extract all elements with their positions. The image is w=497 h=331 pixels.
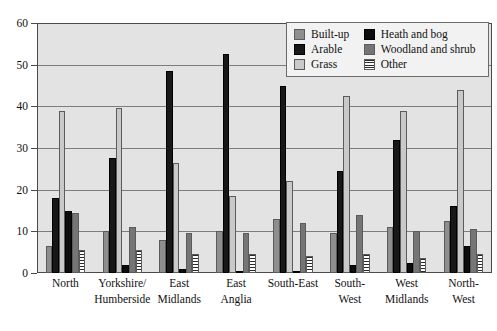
x-tick-label-line: North- [421, 276, 497, 292]
bar-grass [286, 181, 293, 273]
bar-builtup [444, 221, 451, 273]
legend-swatch-heath [364, 29, 375, 40]
bar-woodland [356, 215, 363, 273]
bar-other [306, 256, 313, 273]
y-tick-label-20: 20 [17, 184, 29, 196]
y-tick-label-50: 50 [17, 59, 29, 71]
bar-grass [116, 108, 123, 273]
bar-arable [337, 171, 344, 273]
bar-heath [179, 269, 186, 273]
bar-woodland [186, 233, 193, 273]
bar-woodland [300, 223, 307, 273]
chart-legend: Built-upHeath and bogArableWoodland and … [286, 22, 489, 77]
bar-grass [343, 96, 350, 273]
bar-woodland [243, 233, 250, 273]
legend-swatch-grass [294, 59, 305, 70]
bar-builtup [159, 240, 166, 273]
bar-other [477, 254, 484, 273]
y-tick-label-10: 10 [17, 225, 29, 237]
bar-group [37, 23, 94, 273]
bar-builtup [330, 233, 337, 273]
legend-label: Built-up [311, 28, 349, 41]
bar-grass [229, 196, 236, 273]
bar-woodland [413, 231, 420, 273]
legend-label: Grass [311, 58, 337, 71]
bar-chart: 0102030405060 NorthYorkshire/HumbersideE… [0, 0, 497, 331]
bar-heath [65, 211, 72, 274]
legend-label: Woodland and shrub [381, 43, 476, 56]
legend-item-other[interactable]: Other [364, 58, 482, 71]
legend-swatch-woodland [364, 44, 375, 55]
legend-swatch-arable [294, 44, 305, 55]
bar-other [420, 258, 427, 273]
y-tick-label-30: 30 [17, 142, 29, 154]
bar-builtup [216, 231, 223, 273]
bar-builtup [46, 246, 53, 273]
bar-builtup [387, 227, 394, 273]
bar-arable [450, 206, 457, 273]
bar-group [94, 23, 151, 273]
legend-swatch-builtup [294, 29, 305, 40]
bar-other [249, 254, 256, 273]
bar-grass [400, 111, 407, 274]
legend-item-woodland[interactable]: Woodland and shrub [364, 43, 482, 56]
bar-heath [122, 265, 129, 273]
y-tick-mark-0 [31, 273, 37, 274]
bar-builtup [273, 219, 280, 273]
bar-heath [293, 271, 300, 273]
bar-other [363, 254, 370, 273]
legend-item-grass[interactable]: Grass [294, 58, 356, 71]
bar-builtup [103, 231, 110, 273]
bar-arable [393, 140, 400, 273]
bar-arable [109, 158, 116, 273]
legend-swatch-other [364, 59, 375, 70]
bar-arable [280, 86, 287, 274]
legend-item-arable[interactable]: Arable [294, 43, 356, 56]
x-tick-label-line: Anglia [194, 292, 279, 308]
bar-other [136, 250, 143, 273]
bar-woodland [129, 227, 136, 273]
y-tick-label-60: 60 [17, 17, 29, 29]
bar-arable [166, 71, 173, 273]
bar-heath [350, 265, 357, 273]
bar-woodland [470, 229, 477, 273]
legend-label: Heath and bog [381, 28, 448, 41]
x-tick-label: North-West [421, 276, 497, 307]
bar-arable [52, 198, 59, 273]
bar-grass [173, 163, 180, 273]
bar-heath [464, 246, 471, 273]
bar-grass [59, 111, 66, 274]
legend-label: Arable [311, 43, 342, 56]
bar-woodland [72, 213, 79, 273]
bar-grass [457, 90, 464, 273]
bar-other [192, 254, 199, 273]
x-axis: NorthYorkshire/HumbersideEastMidlandsEas… [37, 276, 492, 331]
bar-heath [407, 263, 414, 273]
legend-item-heath[interactable]: Heath and bog [364, 28, 482, 41]
bar-heath [236, 271, 243, 273]
bar-arable [223, 54, 230, 273]
legend-item-builtup[interactable]: Built-up [294, 28, 356, 41]
bar-other [79, 250, 86, 273]
x-tick-label-line: West [421, 292, 497, 308]
bar-group [208, 23, 265, 273]
y-tick-label-40: 40 [17, 100, 29, 112]
bar-group [151, 23, 208, 273]
y-axis: 0102030405060 [0, 0, 37, 296]
legend-label: Other [381, 58, 407, 71]
